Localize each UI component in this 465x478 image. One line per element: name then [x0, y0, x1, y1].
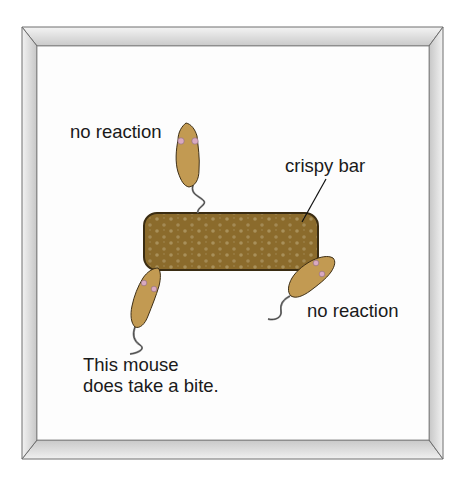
label-bottom-mouse-bite: This mouse does take a bite. — [83, 354, 219, 396]
cage-illustration — [0, 0, 465, 478]
label-bite-line-2: does take a bite. — [83, 375, 219, 396]
figure-stage: no reaction crispy bar no reaction This … — [0, 0, 465, 478]
label-bite-line-1: This mouse — [83, 354, 219, 375]
label-crispy-bar: crispy bar — [285, 155, 365, 176]
label-right-mouse-no-reaction: no reaction — [307, 300, 399, 321]
crispy-bar — [144, 213, 318, 270]
label-top-mouse-no-reaction: no reaction — [70, 121, 162, 142]
